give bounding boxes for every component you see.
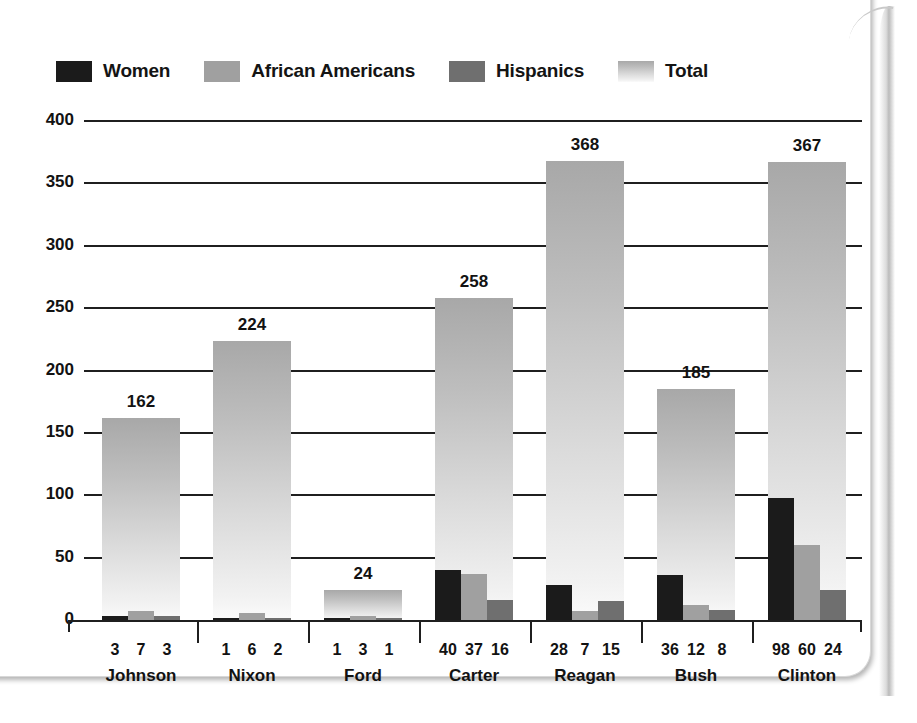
x-axis-category-label: Nixon: [197, 666, 307, 686]
bar-total: [102, 418, 180, 620]
bar-total-value-label: 224: [212, 315, 292, 335]
y-axis-tick-label: 300: [20, 235, 74, 255]
x-axis-category-label: Reagan: [530, 666, 640, 686]
bar-total-value-label: 367: [767, 136, 847, 156]
y-axis-tick-label: 100: [20, 484, 74, 504]
bar-hispanics: [598, 601, 624, 620]
bar-african-americans: [239, 613, 265, 620]
category-separator-tick: [197, 621, 199, 643]
bar-african-americans: [128, 611, 154, 620]
bar-african-americans: [350, 616, 376, 620]
gridline: [84, 120, 862, 122]
y-axis-tick-label: 50: [20, 547, 74, 567]
x-axis-left-cap: [68, 620, 70, 632]
bar-hispanics: [154, 616, 180, 620]
bar-african-americans: [794, 545, 820, 620]
bar-african-americans: [461, 574, 487, 620]
bar-total-value-label: 162: [101, 392, 181, 412]
x-axis-category-label: Johnson: [86, 666, 196, 686]
x-axis-category-label: Bush: [641, 666, 751, 686]
bar-value-label: 2: [258, 641, 298, 659]
y-axis-tick-label: 150: [20, 422, 74, 442]
bar-women: [546, 585, 572, 620]
bar-value-label: 8: [702, 641, 742, 659]
bar-women: [435, 570, 461, 620]
bar-african-americans: [572, 611, 598, 620]
bar-women: [324, 618, 350, 620]
bar-total: [213, 341, 291, 620]
x-axis-right-cap: [860, 620, 862, 632]
category-separator-tick: [752, 621, 754, 643]
y-axis-tick-label: 0: [20, 609, 74, 629]
x-axis-category-label: Ford: [308, 666, 418, 686]
y-axis-tick-label: 400: [20, 110, 74, 130]
x-axis-category-label: Clinton: [752, 666, 862, 686]
bar-women: [213, 618, 239, 620]
x-axis-category-label: Carter: [419, 666, 529, 686]
bar-value-label: 16: [480, 641, 520, 659]
bar-value-label: 24: [813, 641, 853, 659]
bar-total-value-label: 185: [656, 363, 736, 383]
y-axis-tick-label: 350: [20, 172, 74, 192]
category-separator-tick: [419, 621, 421, 643]
bar-value-label: 1: [369, 641, 409, 659]
gridline: [84, 245, 862, 247]
bar-hispanics: [265, 618, 291, 620]
gridline: [84, 182, 862, 184]
category-separator-tick: [530, 621, 532, 643]
bar-hispanics: [820, 590, 846, 620]
chart-page: Women African Americans Hispanics Total …: [0, 0, 917, 723]
category-separator-tick: [641, 621, 643, 643]
bar-hispanics: [376, 618, 402, 620]
bar-hispanics: [487, 600, 513, 620]
y-axis-tick-label: 250: [20, 297, 74, 317]
bar-value-label: 3: [147, 641, 187, 659]
bar-total: [546, 161, 624, 620]
bar-women: [102, 616, 128, 620]
bar-total-value-label: 24: [323, 564, 403, 584]
bar-women: [657, 575, 683, 620]
bar-women: [768, 498, 794, 620]
category-separator-tick: [308, 621, 310, 643]
bar-african-americans: [683, 605, 709, 620]
plot-area: 400350300250200150100500162373Johnson224…: [0, 0, 917, 723]
y-axis-tick-label: 200: [20, 360, 74, 380]
bar-hispanics: [709, 610, 735, 620]
bar-total-value-label: 258: [434, 272, 514, 292]
bar-value-label: 15: [591, 641, 631, 659]
x-axis-line: [68, 620, 862, 622]
bar-total-value-label: 368: [545, 135, 625, 155]
